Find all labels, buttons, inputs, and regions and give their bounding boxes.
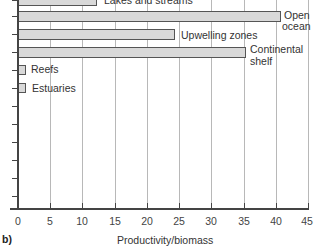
bar-open-ocean (18, 11, 281, 22)
y-tick (12, 196, 18, 197)
x-tick (82, 203, 83, 209)
y-tick (12, 34, 18, 35)
bar-lakes-and-streams (18, 0, 97, 6)
bar-estuaries (18, 83, 26, 93)
x-tick (308, 203, 309, 209)
y-tick (12, 142, 18, 143)
panel-label: b) (2, 233, 12, 245)
x-tick (50, 203, 51, 209)
x-tick (179, 203, 180, 209)
gridline (179, 0, 180, 209)
label-lakes: Lakes and streams (104, 0, 193, 6)
y-tick (12, 88, 18, 89)
y-tick (12, 0, 18, 1)
x-tick (115, 203, 116, 209)
bar-reefs (18, 65, 26, 75)
x-tick (18, 203, 19, 209)
y-tick (12, 16, 18, 17)
y-tick (12, 124, 18, 125)
label-shelf-line2: shelf (250, 56, 272, 67)
x-tick-label: 10 (76, 215, 88, 227)
x-tick (147, 203, 148, 209)
x-tick (244, 203, 245, 209)
gridline (276, 0, 277, 209)
x-tick-label: 35 (238, 215, 250, 227)
x-tick-label: 5 (47, 215, 53, 227)
x-axis-label: Productivity/biomass (117, 234, 213, 246)
y-tick (12, 106, 18, 107)
label-upwelling: Upwelling zones (181, 30, 257, 41)
bar-upwelling-zones (18, 29, 175, 40)
x-tick-label: 40 (270, 215, 282, 227)
x-tick (276, 203, 277, 209)
label-shelf-line1: Continental (250, 44, 303, 55)
x-tick-label: 45 (301, 215, 313, 227)
y-tick (12, 160, 18, 161)
x-tick (211, 203, 212, 209)
y-tick (12, 70, 18, 71)
x-tick-label: 30 (205, 215, 217, 227)
label-reefs: Reefs (31, 64, 58, 75)
x-tick-label: 25 (173, 215, 185, 227)
bar-continental-shelf (18, 47, 246, 58)
label-open-ocean-line2: ocean (282, 21, 311, 32)
y-tick (12, 178, 18, 179)
y-tick (12, 52, 18, 53)
x-tick-label: 15 (109, 215, 121, 227)
bar-chart: Lakes and streams Open ocean Upwelling z… (0, 0, 315, 249)
x-tick-label: 0 (15, 215, 21, 227)
x-axis (10, 208, 309, 210)
label-estuaries: Estuaries (32, 83, 76, 94)
x-tick-label: 20 (141, 215, 153, 227)
